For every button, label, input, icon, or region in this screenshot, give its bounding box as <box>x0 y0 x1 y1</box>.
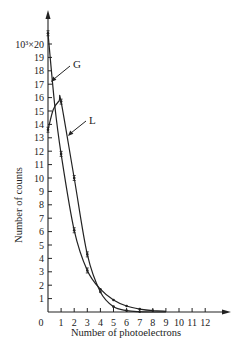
y-tick-label: 11 <box>34 159 44 170</box>
data-point-l <box>112 305 115 308</box>
data-point-g <box>112 299 115 302</box>
y-tick-label: 5 <box>39 240 44 251</box>
axes <box>46 10 232 315</box>
label-g: G <box>73 58 81 70</box>
y-axis-arrow-icon <box>46 10 51 19</box>
y-tick-label: 13 <box>34 132 44 143</box>
y-tick-label: 3 <box>39 266 44 277</box>
data-point-g <box>125 305 128 308</box>
label-l: L <box>89 114 96 126</box>
curve-labels: GL <box>51 58 96 136</box>
data-point-l <box>99 291 102 294</box>
curve-g <box>48 33 166 311</box>
y-tick-label: 14 <box>34 119 44 130</box>
y-tick-label: 10 <box>34 173 44 184</box>
curves <box>48 33 166 312</box>
y-tick-label: 16 <box>34 92 44 103</box>
data-point-g <box>99 288 102 291</box>
y-tick-label: 15 <box>34 106 44 117</box>
x-axis-arrow-icon <box>222 310 231 315</box>
y-tick-label: 7 <box>39 213 44 224</box>
y-tick-label: 4 <box>39 253 44 264</box>
x-axis-ticks: 0123456789101112 <box>39 308 211 328</box>
y-tick-label: 10³×20 <box>15 39 44 50</box>
x-tick-label: 11 <box>187 317 197 328</box>
data-point-g <box>138 308 141 311</box>
data-point-l <box>138 310 141 313</box>
data-point-g <box>152 309 155 312</box>
y-axis-title: Number of counts <box>13 167 24 243</box>
y-tick-label: 18 <box>34 65 44 76</box>
chart: 1234567891011121314151617181910³×20 0123… <box>0 0 244 352</box>
x-tick-label: 12 <box>200 317 210 328</box>
curve-l <box>48 95 166 312</box>
y-tick-label: 9 <box>39 186 44 197</box>
y-tick-label: 12 <box>34 146 44 157</box>
data-points <box>47 31 155 313</box>
y-tick-label: 8 <box>39 199 44 210</box>
x-tick-label: 0 <box>39 317 44 328</box>
y-tick-label: 2 <box>39 280 44 291</box>
arrow-g <box>54 66 70 79</box>
y-tick-label: 6 <box>39 226 44 237</box>
y-tick-label: 19 <box>34 52 44 63</box>
arrow-l <box>71 121 86 133</box>
y-tick-label: 17 <box>34 79 44 90</box>
y-tick-label: 1 <box>39 293 44 304</box>
x-axis-title: Number of photoelectrons <box>71 327 181 338</box>
x-tick-label: 1 <box>59 317 64 328</box>
data-point-l <box>125 309 128 312</box>
